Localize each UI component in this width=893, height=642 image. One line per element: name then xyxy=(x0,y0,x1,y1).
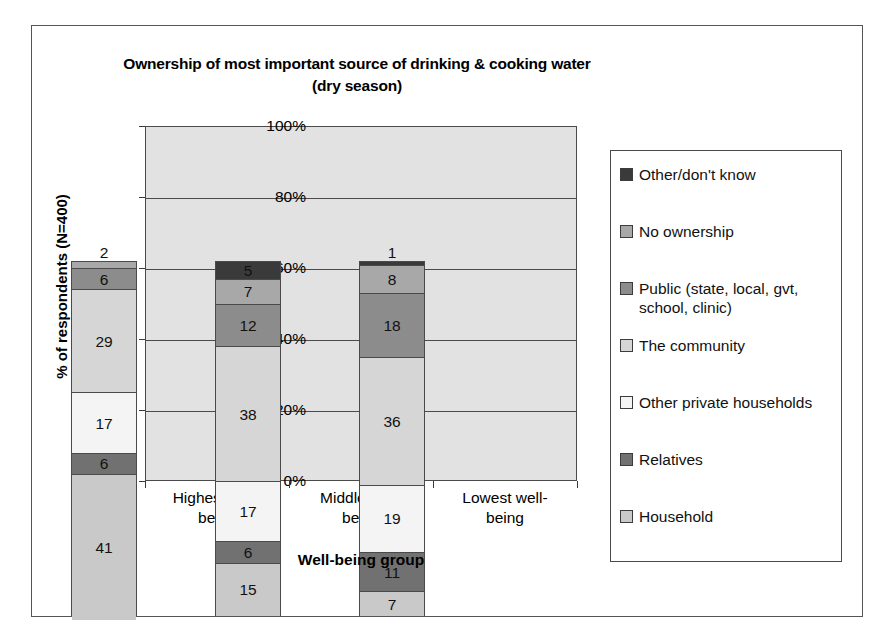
legend-item-label: Relatives xyxy=(639,450,703,469)
x-tick-mark xyxy=(433,481,434,488)
legend-item[interactable]: Other private households xyxy=(620,393,833,450)
bar-segment[interactable]: 7 xyxy=(216,279,280,304)
chart-legend: Other/don't knowNo ownershipPublic (stat… xyxy=(610,150,842,562)
bar-segment[interactable]: 19 xyxy=(360,485,424,552)
legend-item[interactable]: Other/don't know xyxy=(620,165,833,222)
gridline xyxy=(146,198,576,199)
bar-segment-value: 12 xyxy=(239,318,256,333)
legend-swatch-icon xyxy=(620,453,633,466)
y-tick-mark xyxy=(139,197,145,198)
chart-title: Ownership of most important source of dr… xyxy=(92,53,622,97)
bar-segment-value: 19 xyxy=(383,511,400,526)
legend-swatch-icon xyxy=(620,396,633,409)
bar-segment-value: 7 xyxy=(388,597,397,612)
legend-item[interactable]: Public (state, local, gvt, school, clini… xyxy=(620,279,833,336)
bar-segment[interactable]: 12 xyxy=(216,304,280,347)
bar-segment-value: 17 xyxy=(95,416,112,431)
bar-segment-value: 29 xyxy=(95,334,112,349)
legend-swatch-icon xyxy=(620,282,633,295)
x-category-label-line: Lowest well- xyxy=(430,488,580,508)
x-category-label-line: being xyxy=(430,508,580,528)
bar-segment-value: 6 xyxy=(100,456,109,471)
legend-item-label: Other/don't know xyxy=(639,165,756,184)
x-tick-mark xyxy=(577,481,578,488)
legend-item[interactable]: Relatives xyxy=(620,450,833,507)
bar-segment[interactable]: 6 xyxy=(72,453,136,474)
bar-segment[interactable]: 17 xyxy=(216,481,280,541)
legend-swatch-icon xyxy=(620,225,633,238)
legend-item[interactable]: The community xyxy=(620,336,833,393)
stacked-bar[interactable]: 262917641 xyxy=(71,261,137,616)
legend-swatch-icon xyxy=(620,168,633,181)
legend-item-label: Household xyxy=(639,507,713,526)
chart-title-line-2: (dry season) xyxy=(92,75,622,97)
bar-segment-value: 17 xyxy=(239,504,256,519)
legend-swatch-icon xyxy=(620,510,633,523)
bar-segment[interactable]: 15 xyxy=(216,563,280,616)
bar-segment-value: 15 xyxy=(239,582,256,597)
legend-item-label: No ownership xyxy=(639,222,734,241)
y-tick-mark xyxy=(139,268,145,269)
bar-segment-value: 6 xyxy=(100,272,109,287)
y-tick-mark xyxy=(139,410,145,411)
bar-segment-value: 7 xyxy=(244,284,253,299)
legend-item-label: Public (state, local, gvt, school, clini… xyxy=(639,279,833,317)
bar-segment[interactable]: 2 xyxy=(72,261,136,268)
bar-segment[interactable]: 17 xyxy=(72,392,136,452)
bar-segment[interactable]: 8 xyxy=(360,265,424,293)
x-tick-mark xyxy=(289,481,290,488)
legend-item[interactable]: No ownership xyxy=(620,222,833,279)
y-tick-label: 80% xyxy=(236,189,306,204)
bar-segment-value: 2 xyxy=(100,245,109,260)
x-axis-title: Well-being group xyxy=(145,551,577,569)
chart-title-line-1: Ownership of most important source of dr… xyxy=(123,55,590,72)
legend-item-label: The community xyxy=(639,336,745,355)
x-tick-mark xyxy=(145,481,146,488)
bar-segment[interactable]: 7 xyxy=(360,591,424,616)
y-axis-title: % of respondents (N=400) xyxy=(53,162,70,412)
y-tick-label: 100% xyxy=(236,118,306,133)
x-category-label: Lowest well-being xyxy=(430,488,580,528)
bar-segment[interactable]: 6 xyxy=(72,268,136,289)
y-tick-mark xyxy=(139,126,145,127)
bar-segment[interactable]: 38 xyxy=(216,346,280,481)
bar-segment-value: 41 xyxy=(95,540,112,555)
bar-segment[interactable]: 41 xyxy=(72,474,136,620)
bar-segment[interactable]: 29 xyxy=(72,289,136,392)
bar-segment[interactable]: 18 xyxy=(360,293,424,357)
y-tick-mark xyxy=(139,339,145,340)
legend-swatch-icon xyxy=(620,339,633,352)
bar-segment[interactable]: 36 xyxy=(360,357,424,485)
legend-item-label: Other private households xyxy=(639,393,812,412)
bar-segment-value: 5 xyxy=(244,263,253,278)
bar-segment-value: 38 xyxy=(239,407,256,422)
bar-segment-value: 8 xyxy=(388,272,397,287)
bar-segment-value: 1 xyxy=(388,245,397,260)
chart-frame: Ownership of most important source of dr… xyxy=(31,25,863,617)
bar-segment-value: 36 xyxy=(383,414,400,429)
bar-segment-value: 18 xyxy=(383,318,400,333)
legend-item[interactable]: Household xyxy=(620,507,833,564)
bar-segment[interactable]: 5 xyxy=(216,261,280,279)
